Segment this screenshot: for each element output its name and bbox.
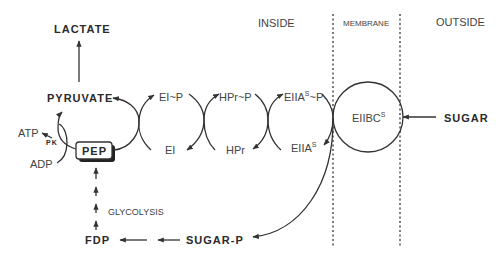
exchange-eiia-arc	[268, 94, 283, 150]
eiibc-label: EIIBCS	[352, 111, 386, 124]
lactate-label: LACTATE	[54, 23, 111, 35]
ei-p-label: EI~P	[159, 91, 183, 103]
pk-label: PK	[46, 139, 58, 146]
eiia-label: EIIAS	[291, 141, 317, 154]
exchange-pep-pyruvate-arc	[113, 98, 139, 150]
exchange-eiiap-arc	[322, 94, 333, 145]
exchange-eip-arc	[187, 94, 204, 150]
eiia-p-label: EIIAS~P	[284, 90, 323, 103]
exchange-hprp-arc	[253, 94, 268, 149]
pep-label: PEP	[82, 145, 107, 157]
atp-arrow	[42, 133, 52, 138]
hpr-label: HPr	[226, 144, 245, 156]
pyruvate-label: PYRUVATE	[47, 92, 113, 104]
hpr-p-label: HPr~P	[219, 91, 252, 103]
region-inside-label: INSIDE	[258, 17, 295, 29]
glycolysis-label: GLYCOLYSIS	[108, 207, 164, 217]
exchange-hpr-arc	[204, 94, 219, 150]
atp-label: ATP	[18, 127, 39, 139]
fdp-label: FDP	[85, 234, 110, 246]
ei-label: EI	[165, 144, 175, 156]
pts-phosphotransferase-diagram: INSIDE MEMBRANE OUTSIDE LACTATE PYRUVATE…	[0, 0, 501, 257]
region-outside-label: OUTSIDE	[436, 16, 485, 28]
region-membrane-label: MEMBRANE	[343, 19, 389, 28]
sugar-label: SUGAR	[444, 112, 489, 124]
exchange-ei-arc	[139, 95, 154, 150]
adp-label: ADP	[30, 158, 53, 170]
sugar-p-label: SUGAR-P	[186, 234, 244, 246]
